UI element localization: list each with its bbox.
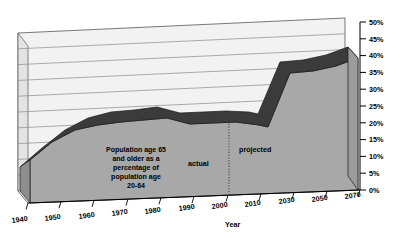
x-tick-label: 1980	[144, 205, 161, 216]
y-tick-label: 30%	[369, 85, 384, 94]
x-tick-label: 2000	[211, 200, 228, 211]
x-tick-label: 1970	[111, 207, 128, 218]
x-tick-label: 1990	[178, 202, 195, 213]
series-description-line-4: population age	[111, 173, 161, 181]
series-description-line-1: Population age 65	[106, 146, 166, 154]
x-axis-title: Year	[225, 220, 240, 229]
projected-label: projected	[239, 145, 271, 154]
y-axis	[360, 22, 366, 190]
area-chart-svg: 50% 45% 40% 35% 30% 25% 20% 15% 10% 5% 0…	[0, 0, 404, 238]
data-area-left-cap	[20, 160, 30, 203]
x-tick-label: 1960	[78, 210, 95, 221]
x-tick-label: 2050	[311, 193, 328, 204]
y-tick-label: 50%	[369, 18, 384, 27]
x-tick-label: 2030	[278, 195, 295, 206]
x-tick-label: 1940	[11, 214, 28, 225]
y-tick-label: 35%	[369, 68, 384, 77]
y-tick-label: 5%	[369, 169, 380, 178]
x-tick-label: 2070	[344, 190, 361, 201]
y-tick-label: 40%	[369, 51, 384, 60]
series-description-line-5: 20-64	[127, 182, 145, 189]
series-description-line-3: percentage of	[113, 164, 160, 172]
series-description-line-2: and older as a	[112, 155, 159, 162]
y-tick-label: 25%	[369, 102, 384, 111]
y-axis-tick-labels: 50% 45% 40% 35% 30% 25% 20% 15% 10% 5% 0…	[369, 18, 384, 195]
y-tick-label: 45%	[369, 35, 384, 44]
y-tick-label: 20%	[369, 119, 384, 128]
x-tick-label: 2010	[244, 198, 261, 209]
actual-label: actual	[188, 159, 209, 168]
y-tick-label: 15%	[369, 135, 384, 144]
chart-container: 50% 45% 40% 35% 30% 25% 20% 15% 10% 5% 0…	[0, 0, 404, 238]
y-tick-label: 10%	[369, 152, 384, 161]
y-tick-label: 0%	[369, 186, 380, 195]
data-area-right-cap	[348, 47, 358, 190]
x-tick-label: 1950	[44, 212, 61, 223]
